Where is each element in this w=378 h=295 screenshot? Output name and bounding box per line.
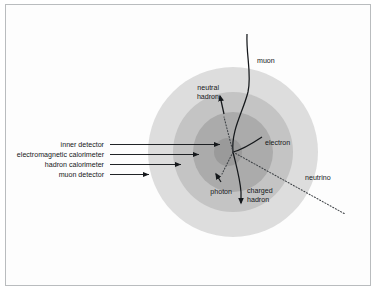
particle-label-neutral-hadron-line1: neutral: [197, 84, 219, 92]
particle-label-muon: muon: [257, 57, 275, 65]
particle-label-charged-hadron-line1: charged: [247, 187, 273, 195]
detector-diagram-figure: muon neutral hadron electron photon char…: [0, 0, 378, 295]
particle-label-electron: electron: [265, 139, 290, 147]
detector-diagram-canvas: muon neutral hadron electron photon char…: [0, 0, 378, 295]
particle-label-neutral-hadron-line2: hadron: [197, 93, 219, 101]
particle-label-neutrino: neutrino: [305, 174, 331, 182]
callout-label-muon-detector: muon detector: [59, 171, 105, 179]
callout-label-inner-detector: inner detector: [61, 141, 105, 149]
callout-label-electromagnetic-calorimeter: electromagnetic calorimeter: [17, 151, 105, 159]
particle-label-photon: photon: [210, 188, 232, 196]
callout-label-hadron-calorimeter: hadron calorimeter: [45, 161, 105, 169]
layer-inner-detector: [214, 138, 242, 166]
particle-label-charged-hadron-line2: hadron: [247, 196, 269, 204]
